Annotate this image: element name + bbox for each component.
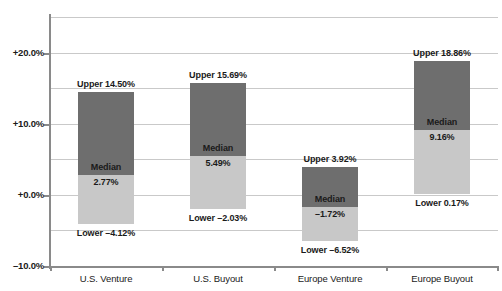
quartile-range-bar-chart: +20.0%+10.0%+0.0%–10.0% Median2.77%Upper… [0, 0, 502, 291]
y-axis-tick-label: +20.0% [0, 47, 44, 58]
y-axis-tick-label: +0.0% [0, 189, 44, 200]
upper-value-label: Upper 3.92% [280, 154, 380, 164]
y-axis-tick: +20.0% [0, 47, 44, 59]
x-axis-category-label: U.S. Buyout [162, 273, 274, 284]
x-axis-tick-mark [162, 266, 164, 271]
y-axis-tick-mark [44, 195, 50, 197]
bar-europe-buyout: Median9.16% [414, 61, 470, 194]
x-axis-tick-mark [274, 266, 276, 271]
gridline [50, 17, 498, 18]
lower-value-label: Lower –6.52% [280, 245, 380, 255]
y-axis-tick: +0.0% [0, 189, 44, 201]
median-value-label: 5.49% [190, 158, 246, 168]
x-axis-category-label: Europe Venture [274, 273, 386, 284]
x-axis-tick-mark [50, 266, 52, 271]
x-axis-tick-mark [497, 266, 499, 271]
bar-u-s-venture: Median2.77% [78, 92, 134, 224]
x-axis-category-label: U.S. Venture [50, 273, 162, 284]
y-axis-tick-mark [44, 53, 50, 55]
upper-value-label: Upper 14.50% [56, 79, 156, 89]
lower-value-label: Lower 0.17% [392, 198, 492, 208]
median-value-label: 9.16% [414, 132, 470, 142]
median-caption: Median [414, 117, 470, 127]
y-axis-tick-label: +10.0% [0, 118, 44, 129]
lower-value-label: Lower –4.12% [56, 228, 156, 238]
y-axis-tick-label: –10.0% [0, 260, 44, 271]
y-axis-tick: +10.0% [0, 118, 44, 130]
median-caption: Median [302, 194, 358, 204]
upper-value-label: Upper 18.86% [392, 48, 492, 58]
median-caption: Median [78, 162, 134, 172]
lower-value-label: Lower –2.03% [168, 213, 268, 223]
median-value-label: –1.72% [302, 209, 358, 219]
bar-u-s-buyout: Median5.49% [190, 83, 246, 209]
y-axis-tick: –10.0% [0, 260, 44, 272]
upper-value-label: Upper 15.69% [168, 70, 268, 80]
median-value-label: 2.77% [78, 177, 134, 187]
x-axis-category-label: Europe Buyout [386, 273, 498, 284]
bar-europe-venture: Median–1.72% [302, 167, 358, 241]
median-caption: Median [190, 143, 246, 153]
y-axis-tick-mark [44, 124, 50, 126]
x-axis-tick-mark [386, 266, 388, 271]
